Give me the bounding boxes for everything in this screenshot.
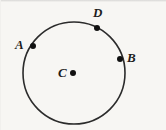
- circle-diagram-canvas: [0, 0, 166, 130]
- point-dot-c: [70, 70, 76, 76]
- point-label-c: C: [58, 66, 67, 79]
- point-dot-d: [94, 25, 100, 31]
- point-label-a: A: [15, 38, 24, 51]
- scan-edge-top: [0, 0, 166, 2]
- point-dot-b: [117, 56, 123, 62]
- geometry-figure: C A D B: [0, 0, 166, 130]
- point-dot-a: [30, 43, 36, 49]
- point-label-d: D: [93, 6, 102, 19]
- point-label-b: B: [127, 51, 136, 64]
- scan-edge-left: [0, 0, 1, 130]
